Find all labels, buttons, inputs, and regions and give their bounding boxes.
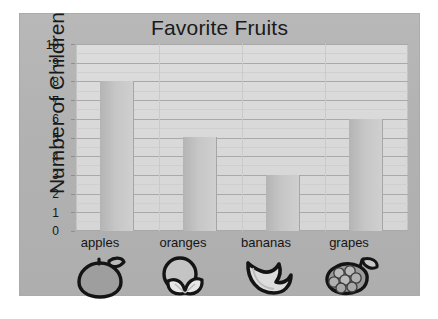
chart-panel: Favorite Fruits Number of Children 10 9 … bbox=[19, 13, 420, 296]
y-tick-label-4: 4 bbox=[37, 151, 59, 163]
chart-screenshot: Favorite Fruits Number of Children 10 9 … bbox=[0, 0, 438, 319]
y-tick-label-10: 10 bbox=[37, 39, 59, 51]
orange-icon bbox=[158, 253, 214, 299]
category-separator bbox=[242, 44, 243, 231]
x-label-grapes: grapes bbox=[309, 235, 389, 250]
axis-tick bbox=[71, 100, 75, 101]
x-label-oranges: oranges bbox=[143, 235, 223, 250]
axis-tick bbox=[71, 194, 75, 195]
y-tick-label-5: 5 bbox=[37, 132, 59, 144]
bar-oranges[interactable] bbox=[183, 137, 217, 231]
y-tick-label-1: 1 bbox=[37, 207, 59, 219]
y-tick-label-3: 3 bbox=[37, 169, 59, 181]
plot-area bbox=[76, 44, 408, 231]
y-tick-label-7: 7 bbox=[37, 95, 59, 107]
x-label-apples: apples bbox=[60, 235, 140, 250]
axis-tick bbox=[71, 156, 75, 157]
bar-grapes[interactable] bbox=[349, 119, 383, 231]
chart-title: Favorite Fruits bbox=[19, 16, 420, 40]
category-separator bbox=[325, 44, 326, 231]
y-tick-label-2: 2 bbox=[37, 188, 59, 200]
bar-apples[interactable] bbox=[100, 81, 134, 231]
axis-tick bbox=[71, 44, 75, 45]
banana-icon bbox=[241, 253, 297, 299]
bar-bananas[interactable] bbox=[266, 175, 300, 231]
axis-tick bbox=[71, 175, 75, 176]
axis-tick bbox=[71, 81, 75, 82]
category-separator bbox=[159, 44, 160, 231]
grapes-icon bbox=[322, 253, 384, 299]
axis-tick bbox=[71, 212, 75, 213]
axis-tick bbox=[71, 231, 75, 232]
axis-tick bbox=[71, 138, 75, 139]
y-tick-label-0: 0 bbox=[37, 225, 59, 237]
y-tick-label-8: 8 bbox=[37, 76, 59, 88]
y-tick-label-6: 6 bbox=[37, 113, 59, 125]
axis-tick bbox=[71, 119, 75, 120]
y-tick-label-9: 9 bbox=[37, 57, 59, 69]
x-label-bananas: bananas bbox=[226, 235, 306, 250]
axis-tick bbox=[71, 63, 75, 64]
apple-icon bbox=[74, 253, 130, 299]
